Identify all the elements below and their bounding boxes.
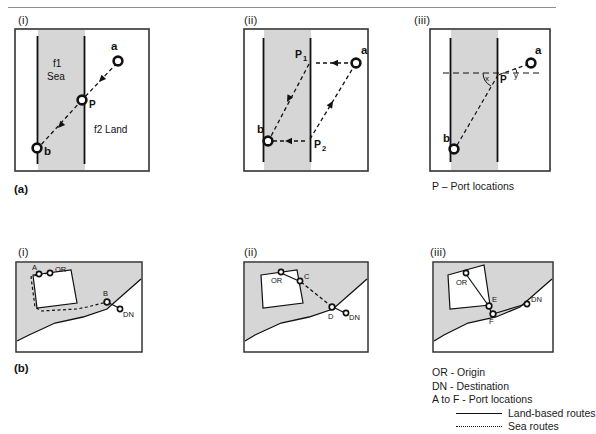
legend: OR - Origin DN - Destination A to F - Po… (432, 366, 596, 434)
node-destination[interactable] (343, 310, 348, 315)
node-p-label: P (89, 99, 96, 110)
node-port-a[interactable] (36, 271, 41, 276)
node-p1-label: P (295, 48, 302, 60)
node-origin-label: OR (456, 278, 468, 287)
node-port-f[interactable] (490, 311, 496, 317)
land-route-swatch-icon (456, 413, 502, 414)
node-port-e[interactable] (486, 303, 492, 309)
panel-label-b-i: (i) (18, 246, 29, 258)
legend-land-routes-row: Land-based routes (432, 407, 596, 421)
node-b[interactable] (264, 137, 273, 146)
node-origin-label: OR (55, 265, 67, 274)
panel-label-b-ii: (ii) (244, 246, 258, 258)
node-b[interactable] (450, 145, 459, 154)
node-a[interactable] (352, 59, 361, 68)
region-label-sea: Sea (47, 71, 65, 82)
top-divider-rule (8, 7, 556, 8)
panel-a-i: a P b f1 Sea f2 Land (14, 28, 150, 172)
panel-a-iii: a P b x y (429, 28, 551, 172)
node-port-b-label: B (103, 289, 108, 298)
node-port-f-label: F (489, 317, 494, 326)
legend-ports: A to F - Port locations (432, 393, 596, 407)
node-destination[interactable] (117, 306, 122, 311)
node-port-d[interactable] (329, 304, 335, 310)
caption-port-locations: P – Port locations (432, 180, 514, 192)
node-b-label: b (44, 145, 51, 157)
legend-origin: OR - Origin (432, 366, 596, 380)
panel-label-a-ii: (ii) (244, 14, 258, 26)
node-destination[interactable] (524, 301, 529, 306)
angle-label-y: y (514, 71, 518, 80)
node-port-c[interactable] (297, 278, 302, 283)
row-label-a: (a) (14, 183, 28, 195)
node-origin[interactable] (278, 269, 283, 274)
panel-label-a-iii: (iii) (414, 14, 430, 26)
node-p[interactable] (78, 96, 87, 105)
node-port-b[interactable] (104, 299, 110, 305)
legend-sea-routes-label: Sea routes (508, 420, 559, 434)
node-origin[interactable] (463, 270, 468, 275)
node-p2-label: P (314, 138, 321, 150)
node-p-label: P (500, 74, 507, 85)
node-port-c-label: C (304, 272, 310, 281)
node-b-label: b (257, 123, 264, 135)
node-b[interactable] (33, 144, 42, 153)
node-destination-label: DN (349, 313, 360, 322)
region-label-f1: f1 (53, 58, 62, 69)
node-p1-subscript: 1 (303, 54, 307, 63)
sea-route-swatch-icon (456, 426, 502, 427)
legend-destination: DN - Destination (432, 380, 596, 394)
panel-a-ii: a b P 1 P 2 (243, 28, 369, 172)
node-a-label: a (535, 44, 542, 56)
region-label-f2-land: f2 Land (94, 124, 127, 135)
legend-sea-routes-row: Sea routes (432, 420, 596, 434)
node-p2-subscript: 2 (322, 144, 326, 153)
node-port-d-label: D (328, 312, 334, 321)
node-a-label: a (361, 44, 368, 56)
node-port-a-label: A (32, 263, 37, 272)
node-port-e-label: E (492, 295, 497, 304)
angle-label-x: x (485, 74, 489, 83)
row-label-b: (b) (14, 362, 29, 374)
node-origin-label: OR (271, 276, 283, 285)
panel-b-ii: OR C D DN (243, 261, 369, 353)
node-destination-label: DN (123, 310, 134, 319)
panel-label-a-i: (i) (18, 14, 29, 26)
node-a[interactable] (527, 59, 536, 68)
node-a[interactable] (114, 57, 123, 66)
node-b-label: b (443, 132, 450, 144)
node-destination-label: DN (531, 295, 542, 304)
panel-b-iii: OR E F DN (432, 261, 554, 353)
node-origin[interactable] (47, 270, 52, 275)
legend-land-routes-label: Land-based routes (508, 407, 596, 421)
node-a-label: a (111, 40, 118, 52)
panel-b-i: A OR B DN (15, 261, 143, 353)
panel-label-b-iii: (iii) (430, 246, 446, 258)
